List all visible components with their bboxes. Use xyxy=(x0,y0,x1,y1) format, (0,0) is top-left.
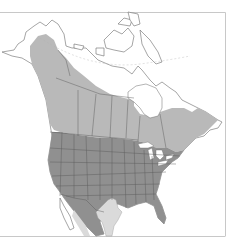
range-map xyxy=(0,0,233,238)
